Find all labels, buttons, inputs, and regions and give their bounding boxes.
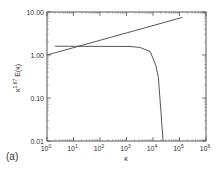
y-tick-label: 0.01 bbox=[30, 138, 44, 145]
y-tick-label: 10.00 bbox=[26, 9, 44, 16]
x-axis-label: κ bbox=[124, 155, 128, 162]
y-tick-labels: 10.001.000.100.01 bbox=[26, 9, 44, 145]
panel-label: (a) bbox=[6, 151, 18, 162]
y-label-rest: E(κ) bbox=[14, 64, 22, 77]
x-tick-label: 104 bbox=[147, 143, 158, 152]
x-tick-label: 102 bbox=[94, 143, 105, 152]
y-label-exp: 1.67 bbox=[12, 79, 18, 89]
y-tick-label: 1.00 bbox=[30, 52, 44, 59]
x-tick-label: 105 bbox=[173, 143, 184, 152]
y-tick-label: 0.10 bbox=[30, 95, 44, 102]
spectrum-curve bbox=[55, 46, 163, 141]
y-axis-label: κ1.67E(κ) bbox=[12, 64, 22, 92]
reference-line bbox=[47, 17, 183, 55]
x-tick-label: 101 bbox=[67, 143, 78, 152]
x-tick-label: 103 bbox=[120, 143, 131, 152]
minor-ticks bbox=[47, 12, 206, 141]
x-tick-labels: 100101102103104105106 bbox=[41, 143, 211, 152]
series-lines bbox=[47, 17, 183, 141]
major-ticks bbox=[47, 12, 206, 141]
plot-frame bbox=[47, 12, 206, 141]
chart: 100101102103104105106 10.001.000.100.01 … bbox=[0, 0, 220, 175]
x-tick-label: 106 bbox=[200, 143, 211, 152]
